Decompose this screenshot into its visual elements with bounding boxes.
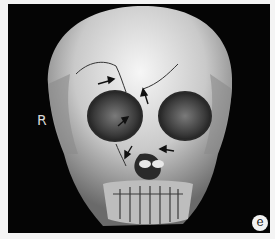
ct-image-panel: R e — [8, 4, 270, 233]
left-orbit — [159, 92, 211, 140]
skull-rendering — [8, 4, 270, 233]
panel-letter-badge: e — [252, 215, 268, 231]
side-label: R — [37, 113, 47, 127]
right-orbit — [88, 91, 142, 141]
